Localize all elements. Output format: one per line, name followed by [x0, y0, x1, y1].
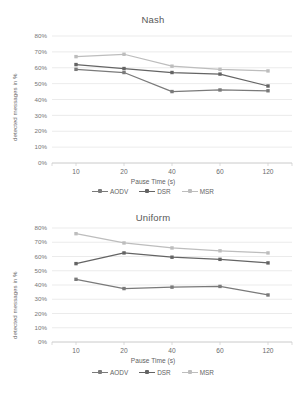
series-line-msr	[76, 54, 268, 71]
data-point-dsr	[122, 251, 125, 254]
data-point-dsr	[266, 261, 269, 264]
data-point-dsr	[170, 256, 173, 259]
data-point-dsr	[74, 262, 77, 265]
legend-label: DSR	[157, 369, 171, 376]
x-tick-label: 60	[216, 347, 224, 354]
y-tick-label: 60%	[35, 64, 48, 71]
legend-swatch-icon	[139, 189, 155, 195]
y-tick-label: 30%	[35, 112, 48, 119]
chart-panel-nash: Nash detected messages in % 0%10%20%30%4…	[0, 0, 306, 196]
y-tick-label: 80%	[35, 32, 48, 39]
x-tick-label: 120	[262, 168, 273, 175]
legend-swatch-icon	[139, 370, 155, 376]
data-point-msr	[266, 251, 269, 254]
legend-label: MSR	[200, 188, 214, 195]
chart-legend-nash: AODVDSRMSR	[0, 188, 306, 195]
y-tick-label: 50%	[35, 267, 48, 274]
data-point-aodv	[74, 278, 77, 281]
data-point-msr	[122, 53, 125, 56]
data-point-aodv	[266, 293, 269, 296]
data-point-msr	[266, 69, 269, 72]
data-point-aodv	[218, 285, 221, 288]
legend-label: MSR	[200, 369, 214, 376]
y-tick-label: 60%	[35, 253, 48, 260]
data-point-aodv	[122, 71, 125, 74]
data-point-msr	[170, 246, 173, 249]
data-point-aodv	[266, 89, 269, 92]
y-tick-label: 0%	[38, 338, 47, 345]
legend-item-dsr[interactable]: DSR	[139, 188, 171, 195]
data-point-aodv	[218, 88, 221, 91]
y-tick-label: 20%	[35, 127, 48, 134]
legend-swatch-icon	[182, 189, 198, 195]
x-tick-label: 120	[262, 347, 273, 354]
x-tick-label: 40	[168, 347, 176, 354]
legend-label: AODV	[110, 369, 128, 376]
data-point-msr	[122, 241, 125, 244]
data-point-msr	[218, 249, 221, 252]
x-axis-label-nash: Pause Time (s)	[0, 178, 306, 185]
y-tick-label: 70%	[35, 238, 48, 245]
legend-item-aodv[interactable]: AODV	[92, 369, 128, 376]
y-tick-label: 30%	[35, 295, 48, 302]
data-point-msr	[170, 64, 173, 67]
x-tick-label: 10	[72, 168, 80, 175]
y-tick-label: 40%	[35, 96, 48, 103]
y-tick-label: 0%	[38, 159, 47, 166]
y-tick-label: 50%	[35, 80, 48, 87]
legend-label: AODV	[110, 188, 128, 195]
y-tick-label: 10%	[35, 324, 48, 331]
data-point-msr	[74, 232, 77, 235]
data-point-dsr	[170, 71, 173, 74]
data-point-dsr	[218, 72, 221, 75]
x-tick-label: 10	[72, 347, 80, 354]
legend-item-aodv[interactable]: AODV	[92, 188, 128, 195]
series-line-msr	[76, 234, 268, 253]
y-tick-label: 10%	[35, 143, 48, 150]
chart-legend-uniform: AODVDSRMSR	[0, 369, 306, 376]
data-point-aodv	[170, 285, 173, 288]
y-tick-label: 40%	[35, 281, 48, 288]
chart-panel-uniform: Uniform detected messages in % 0%10%20%3…	[0, 196, 306, 393]
data-point-aodv	[170, 90, 173, 93]
legend-item-msr[interactable]: MSR	[182, 188, 214, 195]
data-point-dsr	[218, 258, 221, 261]
y-tick-label: 70%	[35, 48, 48, 55]
legend-swatch-icon	[92, 370, 108, 376]
data-point-msr	[74, 55, 77, 58]
data-point-dsr	[122, 67, 125, 70]
line-chart-nash: 0%10%20%30%40%50%60%70%80%10204060120	[0, 0, 306, 196]
x-tick-label: 60	[216, 168, 224, 175]
data-point-dsr	[266, 84, 269, 87]
x-tick-label: 40	[168, 168, 176, 175]
y-tick-label: 80%	[35, 224, 48, 231]
x-axis-label-uniform: Pause Time (s)	[0, 357, 306, 364]
data-point-aodv	[74, 68, 77, 71]
data-point-aodv	[122, 287, 125, 290]
y-tick-label: 20%	[35, 310, 48, 317]
x-tick-label: 20	[120, 168, 128, 175]
legend-swatch-icon	[182, 370, 198, 376]
data-point-dsr	[74, 63, 77, 66]
legend-item-dsr[interactable]: DSR	[139, 369, 171, 376]
legend-swatch-icon	[92, 189, 108, 195]
data-point-msr	[218, 68, 221, 71]
legend-item-msr[interactable]: MSR	[182, 369, 214, 376]
x-tick-label: 20	[120, 347, 128, 354]
legend-label: DSR	[157, 188, 171, 195]
